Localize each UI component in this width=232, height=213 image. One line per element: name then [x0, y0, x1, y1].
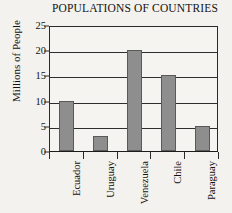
x-tick-label-ecuador: Ecuador: [71, 161, 82, 213]
bar-ecuador: [59, 101, 74, 151]
y-tick-label-5: 5: [18, 122, 46, 133]
x-tick-mark-0: [49, 152, 50, 159]
bar-series: [50, 27, 217, 151]
x-tick-label-venezuela: Venezuela: [139, 161, 150, 213]
x-tick-mark-2: [117, 152, 118, 159]
y-tick-mark-15: [44, 76, 49, 77]
y-tick-label-10: 10: [18, 96, 46, 107]
bar-chart: POPULATIONS OF COUNTRIES Millions of Peo…: [0, 0, 232, 213]
x-tick-mark-3: [150, 152, 151, 159]
y-tick-mark-5: [44, 126, 49, 127]
chart-title: POPULATIONS OF COUNTRIES: [40, 2, 230, 14]
y-tick-label-20: 20: [18, 46, 46, 57]
bar-uruguay: [93, 136, 108, 151]
y-tick-label-25: 25: [18, 21, 46, 32]
y-tick-mark-20: [44, 51, 49, 52]
y-tick-label-0: 0: [18, 147, 46, 158]
y-tick-mark-10: [44, 101, 49, 102]
x-tick-label-paraguay: Paraguay: [206, 161, 217, 213]
plot-area: [49, 26, 218, 152]
x-tick-label-chile: Chile: [172, 161, 183, 213]
x-tick-mark-5: [218, 152, 219, 159]
x-tick-mark-4: [184, 152, 185, 159]
x-tick-mark-1: [83, 152, 84, 159]
x-tick-label-uruguay: Uruguay: [105, 161, 116, 213]
bar-chile: [161, 75, 176, 151]
bar-paraguay: [195, 126, 210, 151]
y-tick-mark-25: [44, 26, 49, 27]
y-tick-label-15: 15: [18, 71, 46, 82]
bar-venezuela: [127, 50, 142, 151]
